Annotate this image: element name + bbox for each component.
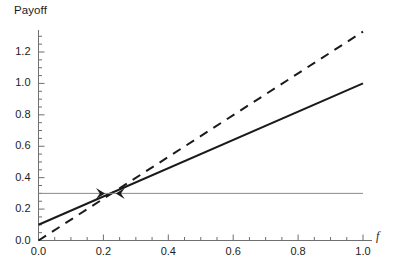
series-solid-line	[39, 83, 364, 224]
chart-plot-area	[0, 0, 393, 271]
series-dashed-line	[39, 32, 364, 241]
y-tick-label: 1.0	[3, 76, 31, 88]
x-tick-label: 0.8	[281, 245, 315, 257]
y-axis-minor-ticks	[39, 36, 43, 232]
chart-figure: Payoff f 0.00.20.40.60.81.01.2 0.00.20.4…	[0, 0, 393, 271]
data-series-group	[39, 32, 364, 241]
x-tick-label: 0.6	[216, 245, 250, 257]
y-axis-major-ticks	[39, 52, 45, 241]
y-tick-label: 1.2	[3, 45, 31, 57]
x-tick-label: 0.4	[151, 245, 185, 257]
y-tick-label: 0.2	[3, 202, 31, 214]
y-tick-label: 0.4	[3, 171, 31, 183]
y-tick-label: 0.8	[3, 108, 31, 120]
x-axis-minor-ticks	[55, 237, 347, 241]
y-tick-label: 0.6	[3, 139, 31, 151]
x-tick-label: 1.0	[346, 245, 380, 257]
x-tick-label: 0.0	[22, 245, 56, 257]
x-tick-label: 0.2	[86, 245, 120, 257]
